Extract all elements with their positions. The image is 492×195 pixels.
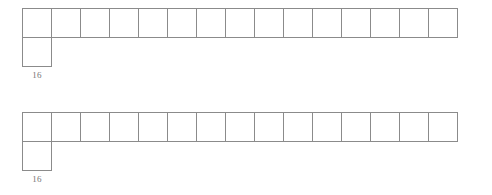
grid-cell <box>167 112 197 142</box>
grid-cell <box>341 8 371 38</box>
grid-cell <box>254 112 284 142</box>
grid-cell <box>428 112 458 142</box>
grid-cell <box>341 112 371 142</box>
grid-cell <box>254 8 284 38</box>
grid-label-2: 16 <box>22 174 52 185</box>
grid-cell <box>399 112 429 142</box>
grid-cell <box>22 141 52 171</box>
grid-cell <box>196 8 226 38</box>
grid-cell <box>167 8 197 38</box>
grid-cell <box>51 8 81 38</box>
grid-cell <box>370 8 400 38</box>
grid-cell <box>22 8 52 38</box>
grid-cell <box>22 37 52 67</box>
grid-cell <box>138 112 168 142</box>
grid-cell <box>399 8 429 38</box>
grid-cell <box>283 8 313 38</box>
grid-tail-row-1 <box>22 37 458 67</box>
grid-shape-1 <box>22 8 458 67</box>
grid-cell <box>109 8 139 38</box>
grid-cell <box>370 112 400 142</box>
grid-cell <box>283 112 313 142</box>
grid-cell <box>138 8 168 38</box>
grid-cell <box>225 8 255 38</box>
grid-cell <box>80 8 110 38</box>
grid-shape-2 <box>22 112 458 171</box>
grid-cell <box>312 112 342 142</box>
grid-cell <box>22 112 52 142</box>
grid-strip-row-2 <box>22 112 458 142</box>
grid-cell <box>225 112 255 142</box>
grid-cell <box>51 112 81 142</box>
grid-strip-row-1 <box>22 8 458 38</box>
grid-cell <box>428 8 458 38</box>
grid-cell <box>196 112 226 142</box>
grid-tail-row-2 <box>22 141 458 171</box>
grid-cell <box>109 112 139 142</box>
grid-label-1: 16 <box>22 70 52 81</box>
grid-cell <box>312 8 342 38</box>
grid-cell <box>80 112 110 142</box>
